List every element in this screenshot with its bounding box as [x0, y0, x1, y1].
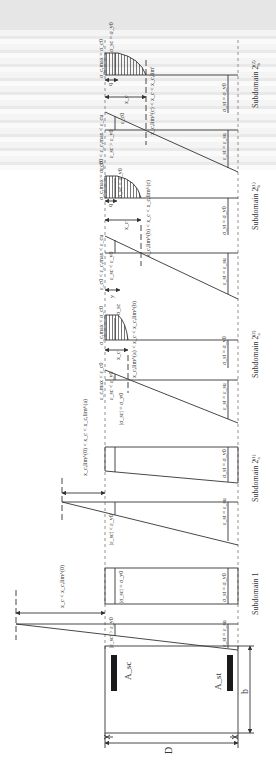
sub2b1-concrete-stress-block	[105, 176, 141, 198]
sub2b2-strain-st-label: ε_st = ε_su	[221, 133, 227, 160]
sub1-stress-block	[105, 568, 238, 604]
sub2a1-strain-sc-label: |ε_sc| < ε_y0	[108, 514, 114, 545]
sub2a1-strain-line	[62, 502, 238, 545]
subdomain-2b2	[105, 53, 238, 172]
sub2b1-y-label: y	[109, 295, 115, 298]
subdomain-1	[16, 568, 238, 650]
sub1-strain-st-label: ε_st = ε_su	[221, 620, 227, 647]
sub2a2-stress-top-label: σ_c,max < σ_c0	[98, 306, 104, 345]
sub2b1-q-label: q	[107, 204, 113, 207]
sub2a1-stress-st-label: σ_st = σ_y0	[221, 449, 227, 478]
fiber-reference-lines	[105, 40, 238, 650]
sub2b2-q-label: q	[107, 83, 113, 86]
sub2a1-title: Subdomain 2a(1)	[251, 454, 261, 502]
sub2b1-depth-label: x_c	[123, 221, 129, 230]
sub2a1-stress-sc-label: |σ_sc| = σ_y0	[118, 393, 124, 425]
subdomain-2a1	[62, 447, 238, 545]
label-depth: D	[163, 747, 174, 754]
sub2a1-strain-st-label: ε_st = ε_su	[221, 498, 227, 525]
cover-mark-left	[104, 735, 113, 739]
label-width: b	[239, 689, 250, 694]
sub2b2-title: Subdomain 2b(2)	[251, 60, 261, 108]
sub2b2-strain-top-label: ε_c0 < ε_c,max < ε_cu	[98, 115, 104, 170]
subdomain-2b1	[105, 176, 238, 299]
sub2a2-strain-sc-label: ε_sc < ε_y0	[108, 372, 114, 400]
cross-section	[104, 646, 254, 748]
sub1-title: Subdomain 1	[251, 573, 260, 615]
sub2b1-strain-sc-label: ε_sc < ε_y0	[108, 252, 114, 280]
sub2b2-strain-sc-label: ε_sc > ε_y0	[108, 130, 114, 158]
sub1-strain-sc-label: |ε_sc| > ε_y0	[108, 617, 114, 648]
cover-mark-right	[230, 735, 238, 739]
compression-steel-bar	[111, 655, 117, 691]
sub2a2-strain-top-label: ε_c,max < ε_c0	[98, 362, 104, 400]
label-asc: A_sc	[123, 661, 133, 680]
sub2a2-title: Subdomain 2a(2)	[251, 330, 261, 378]
sub2a2-stress-st-label: σ_st = σ_y0	[221, 336, 227, 365]
sub2b2-stress-st-label: σ_st = σ_y0	[221, 83, 227, 112]
sub2b1-strain-top-label: ε_c0 < ε_c,max < ε_cu	[98, 235, 104, 290]
sub2a2-depth-label: x_c	[115, 351, 121, 360]
sub2b1-strain-st-label: ε_st = ε_su	[221, 258, 227, 285]
sub2a1-neutral-axis-label: x_c,lim^(0) < x_c < x_c,lim^(a)	[82, 399, 89, 476]
sub2b1-neutral-axis-label: x_c,lim^(b) < x_c < x_c,lim^(c)	[145, 180, 152, 257]
sub2b2-depth-label: x_c	[123, 95, 129, 104]
subdomain-2a2	[105, 315, 238, 423]
sub2b1-stress-st-label: σ_st = σ_y0	[221, 206, 227, 235]
sub1-neutral-axis-label: x_c < x_c,lim^(0)	[59, 565, 66, 608]
sub2a1-stress-block	[105, 447, 238, 483]
sub1-stress-st-label: σ_st = σ_y0	[221, 573, 227, 602]
sub2a2-stress-sc-label: σ_sc	[115, 303, 121, 315]
sub2b1-title: Subdomain 2b(1)	[251, 182, 261, 230]
sub1-stress-sc-label: |σ_sc| = σ_y0	[118, 571, 124, 603]
sub2a2-strain-st-label: ε_st = ε_su	[221, 383, 227, 410]
sub2a2-strain-line	[105, 370, 238, 423]
sub2b2-stress-top-label: σ_c,max = σ_c0	[98, 39, 104, 78]
tension-steel-bar	[227, 655, 233, 691]
label-ast: A_st	[213, 672, 223, 690]
sub2b1-strain-line	[105, 236, 238, 299]
sub2a2-concrete-stress-block	[105, 315, 128, 340]
sub2b2-neutral-axis-label: x_c,lim^(c) < x_c < x_c,lim'	[149, 67, 156, 135]
sub2b2-strain-mid-label: ε_c0	[119, 113, 125, 124]
sub2b2-stress-sc-label: σ_sc = σ_y0	[108, 22, 114, 52]
sub2b2-concrete-stress-block	[105, 53, 146, 75]
sub2a2-neutral-axis-label: x_c,lim^(a) < x_c < x_c,lim^(b)	[131, 301, 138, 378]
diagram-canvas: A_sc A_st D b |ε_sc| > ε_y0 ε_st = ε_su …	[0, 0, 276, 779]
sub2b1-stress-sc-label: σ_sc < σ_y0	[117, 168, 123, 198]
